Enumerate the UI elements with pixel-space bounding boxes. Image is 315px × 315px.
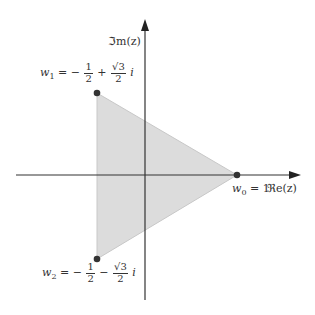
real-axis-label: ℜe(z) — [267, 183, 297, 194]
w1-frac-real: 12 — [84, 62, 92, 84]
complex-plane-diagram: ℑm(z) ℜe(z) w0 = 1 w1 = − 12 + √32 i w2 … — [0, 0, 315, 315]
point-w1 — [94, 90, 101, 97]
w1-label: w1 = − 12 + √32 i — [40, 62, 134, 84]
imag-axis-arrow-icon — [141, 19, 149, 31]
w2-frac-real: 12 — [86, 262, 94, 284]
w0-label: w0 = 1 — [232, 183, 270, 197]
imag-axis-label: ℑm(z) — [108, 36, 141, 47]
w1-frac-imag: √32 — [111, 62, 126, 84]
w2-frac-imag: √32 — [113, 262, 128, 284]
real-axis-arrow-icon — [289, 171, 301, 179]
triangle-region — [97, 93, 237, 259]
w2-label: w2 = − 12 − √32 i — [42, 262, 136, 284]
point-w0 — [234, 172, 241, 179]
